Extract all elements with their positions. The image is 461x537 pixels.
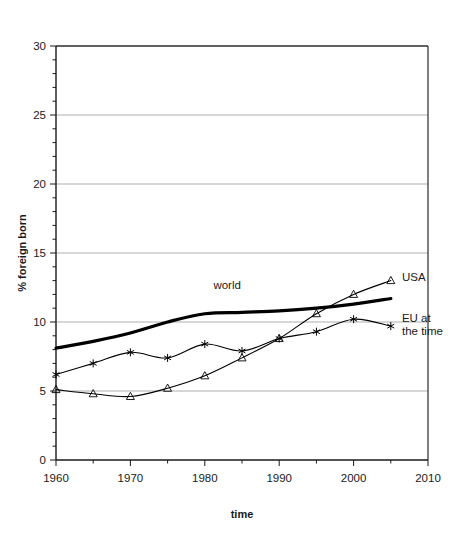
y-tick-label: 30: [33, 40, 46, 52]
y-tick-label: 10: [33, 316, 46, 328]
x-tick-label: 1970: [118, 472, 144, 484]
line-chart: 051015202530196019701980199020002010 wor…: [0, 0, 461, 537]
series-label-eu-at-the-time: EU atthe time: [402, 312, 443, 337]
y-axis-title: % foreign born: [16, 214, 28, 292]
y-tick-label: 20: [33, 178, 46, 190]
y-tick-label: 0: [40, 454, 46, 466]
series-label-usa: USA: [402, 271, 426, 283]
series-label-world: world: [212, 279, 240, 291]
x-tick-label: 1960: [43, 472, 69, 484]
x-tick-label: 1980: [192, 472, 218, 484]
x-axis-title: time: [231, 508, 254, 520]
x-tick-label: 2010: [415, 472, 441, 484]
x-tick-label: 2000: [341, 472, 367, 484]
y-tick-label: 25: [33, 109, 46, 121]
x-tick-label: 1990: [266, 472, 292, 484]
y-tick-label: 5: [40, 385, 46, 397]
y-tick-label: 15: [33, 247, 46, 259]
chart-container: 051015202530196019701980199020002010 wor…: [0, 0, 461, 537]
